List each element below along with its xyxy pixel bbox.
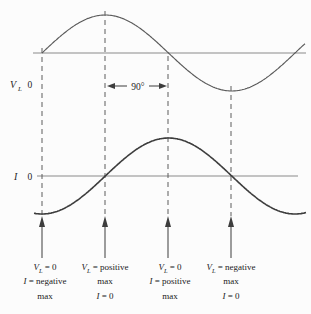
- annotation-line: VL = negative: [194, 262, 268, 276]
- pointer-arrows: [39, 216, 234, 258]
- phase-dimension: 90°: [107, 82, 167, 92]
- annotation-line: I = 0: [68, 291, 142, 305]
- annotation-col-2: VL = positive max I = 0: [68, 262, 142, 305]
- vl-axis-subscript: L: [17, 85, 22, 93]
- vl-axis-zero: 0: [28, 80, 33, 90]
- phase-angle-label: 90°: [131, 82, 145, 92]
- up-arrowhead-icon-3: [165, 216, 171, 227]
- up-arrowhead-icon-2: [102, 216, 108, 227]
- up-arrowhead-icon-4: [228, 216, 234, 227]
- i-axis-zero: 0: [28, 172, 33, 182]
- annotation-line: VL = positive: [68, 262, 142, 276]
- left-arrowhead-icon: [107, 83, 115, 89]
- dashed-guides: [42, 11, 231, 216]
- up-arrowhead-icon-1: [39, 216, 45, 227]
- annotation-line: max: [68, 276, 142, 290]
- annotation-line: max: [194, 276, 268, 290]
- right-arrowhead-icon: [159, 83, 167, 89]
- inductor-phase-diagram: 90° V L 0 I 0 VL = 0 I = negative max VL…: [0, 0, 311, 314]
- annotation-line: I = 0: [194, 291, 268, 305]
- i-axis-symbol: I: [13, 171, 18, 182]
- vl-axis-symbol: V: [10, 79, 18, 90]
- annotation-col-4: VL = negative max I = 0: [194, 262, 268, 305]
